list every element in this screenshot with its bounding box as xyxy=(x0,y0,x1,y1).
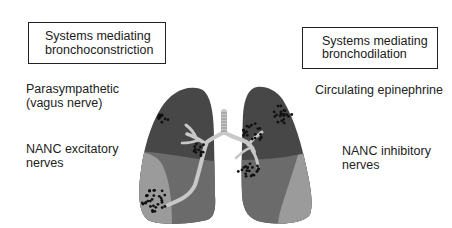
receptor-dot xyxy=(152,189,155,192)
receptor-dot xyxy=(256,165,259,168)
receptor-dot xyxy=(256,170,259,173)
receptor-dot xyxy=(141,202,144,205)
receptor-dot xyxy=(280,111,283,114)
receptor-dot xyxy=(246,134,249,137)
receptor-dot xyxy=(241,169,244,172)
receptor-dot xyxy=(164,118,167,121)
receptor-dot xyxy=(246,169,249,172)
receptor-dot xyxy=(273,111,276,114)
receptor-dot xyxy=(283,109,286,112)
receptor-dot xyxy=(202,143,205,146)
receptor-dot xyxy=(282,113,285,116)
lungs-illustration xyxy=(0,0,452,228)
receptor-dot xyxy=(251,166,254,169)
receptor-dot xyxy=(243,166,246,169)
receptor-dot xyxy=(161,189,164,192)
left-lung xyxy=(130,80,230,228)
receptor-dot xyxy=(248,170,251,173)
receptor-dot xyxy=(145,194,148,197)
receptor-dot xyxy=(283,122,286,125)
receptor-dot xyxy=(254,133,257,136)
receptor-dot xyxy=(249,162,252,165)
receptor-dot xyxy=(148,189,151,192)
receptor-dot xyxy=(161,206,164,209)
receptor-dot xyxy=(149,205,152,208)
receptor-dot xyxy=(158,195,161,198)
receptor-dot xyxy=(254,137,257,140)
receptor-dot xyxy=(287,115,290,118)
receptor-dot xyxy=(257,127,260,130)
receptor-dot xyxy=(194,148,197,151)
receptor-dot xyxy=(290,113,293,116)
receptor-dot xyxy=(152,204,155,207)
right-lung xyxy=(235,80,320,228)
receptor-dot xyxy=(273,115,276,118)
receptor-dot xyxy=(277,121,280,124)
receptor-dot xyxy=(251,138,254,141)
trachea-rings xyxy=(221,113,227,131)
receptor-dot xyxy=(161,121,164,124)
receptor-dot xyxy=(237,170,240,173)
receptor-dot xyxy=(161,114,164,117)
receptor-dot xyxy=(193,145,196,148)
receptor-dot xyxy=(246,125,249,128)
receptor-dot xyxy=(200,153,203,156)
receptor-dot xyxy=(199,146,202,149)
receptor-dot xyxy=(163,194,166,197)
receptor-dot xyxy=(246,166,249,169)
receptor-dot xyxy=(250,175,253,178)
receptor-dot xyxy=(242,134,245,137)
receptor-dot xyxy=(167,118,170,121)
receptor-dot xyxy=(197,148,200,151)
receptor-dot xyxy=(164,205,167,208)
receptor-dot xyxy=(244,172,247,175)
receptor-dot xyxy=(277,105,280,108)
receptor-dot xyxy=(202,151,205,154)
receptor-dot xyxy=(195,142,198,145)
receptor-dot xyxy=(154,206,157,209)
receptor-dot xyxy=(144,201,147,204)
receptor-dot xyxy=(259,133,262,136)
receptor-dot xyxy=(282,118,285,121)
receptor-dot xyxy=(243,132,246,135)
receptor-dot xyxy=(157,203,160,206)
receptor-dot xyxy=(160,199,163,202)
receptor-dot xyxy=(254,122,257,125)
receptor-dot xyxy=(279,115,282,118)
receptor-dot xyxy=(158,114,161,117)
receptor-dot xyxy=(151,198,154,201)
receptor-dot xyxy=(152,194,155,197)
receptor-dot xyxy=(279,105,282,108)
receptor-dot xyxy=(253,174,256,177)
receptor-dot xyxy=(195,151,198,154)
receptor-dot xyxy=(259,138,262,141)
receptor-dot xyxy=(151,210,154,213)
receptor-dot xyxy=(245,175,248,178)
receptor-dot xyxy=(242,129,245,132)
